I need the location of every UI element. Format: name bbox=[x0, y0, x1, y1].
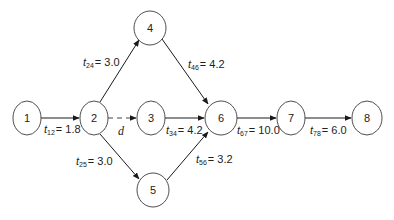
node-4: 4 bbox=[134, 11, 166, 45]
edge-label-2-5: t25= 3.0 bbox=[76, 155, 113, 168]
node-2: 2 bbox=[80, 101, 108, 135]
edge-label-dummy-d: d bbox=[118, 124, 125, 138]
node-label: 8 bbox=[364, 112, 370, 124]
node-7: 7 bbox=[277, 101, 305, 135]
edge-label-3-6: t34= 4.2 bbox=[166, 124, 203, 137]
node-label: 4 bbox=[147, 22, 153, 34]
edge-label-6-7: t67= 10.0 bbox=[237, 124, 280, 137]
edge-label-1-2: t12= 1.8 bbox=[44, 123, 81, 136]
edge-4-6 bbox=[162, 39, 208, 104]
edge-label-4-6: t46= 4.2 bbox=[188, 58, 225, 71]
node-label: 3 bbox=[148, 112, 154, 124]
edge-label-5-6: t56= 3.2 bbox=[196, 153, 233, 166]
node-label: 6 bbox=[218, 112, 224, 124]
activity-network-diagram: 1 2 3 4 5 6 7 8 t12= 1.8 t24= 3.0 d t25=… bbox=[0, 0, 394, 220]
node-5: 5 bbox=[137, 173, 169, 207]
node-label: 5 bbox=[150, 184, 156, 196]
node-label: 7 bbox=[288, 112, 294, 124]
edge-5-6 bbox=[167, 132, 208, 180]
edge-label-7-8: t78= 6.0 bbox=[310, 124, 347, 137]
node-3: 3 bbox=[137, 101, 165, 135]
node-label: 1 bbox=[24, 112, 30, 124]
node-label: 2 bbox=[91, 112, 97, 124]
node-6: 6 bbox=[205, 101, 237, 135]
node-8: 8 bbox=[352, 101, 382, 135]
edge-label-2-4: t24= 3.0 bbox=[83, 56, 120, 69]
edge-2-4 bbox=[100, 40, 139, 102]
node-1: 1 bbox=[13, 101, 41, 135]
